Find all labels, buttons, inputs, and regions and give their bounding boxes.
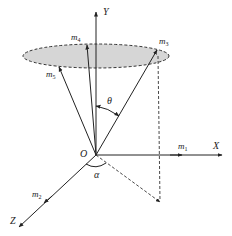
m5-label: m5	[46, 69, 56, 80]
m5-vector	[59, 67, 96, 155]
diagram-svg: Y X Z O m1 m2 m3 m4 m5 θ α	[0, 0, 232, 236]
origin-label: O	[80, 148, 87, 159]
projection-vertical	[158, 56, 160, 201]
projection-ground	[96, 155, 160, 202]
x-axis-label: X	[212, 140, 220, 151]
theta-label: θ	[107, 95, 112, 106]
m1-label: m1	[178, 141, 188, 152]
alpha-arc	[86, 163, 106, 167]
m3-label: m3	[159, 36, 169, 47]
theta-arc	[96, 106, 119, 116]
alpha-label: α	[94, 169, 100, 180]
y-axis-label: Y	[103, 6, 110, 17]
z-axis	[19, 155, 96, 227]
m4-label: m4	[71, 32, 81, 43]
m2-label: m2	[32, 189, 42, 200]
m2-arrow	[44, 196, 52, 203]
cone-vector-diagram: Y X Z O m1 m2 m3 m4 m5 θ α	[0, 0, 232, 236]
z-axis-label: Z	[10, 215, 16, 226]
